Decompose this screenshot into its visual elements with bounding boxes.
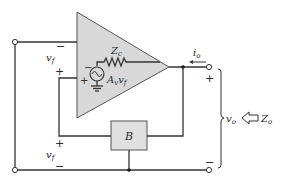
feedback-block-label: B: [124, 130, 133, 143]
arrowhead-icon: [189, 60, 193, 64]
circuit-diagram: B Zc − + Avvf − vf + + vf − io + − vo Zo: [0, 0, 285, 184]
feedback-wire-right: [147, 67, 183, 136]
terminal-output-plus: [206, 64, 211, 69]
output-brace: [218, 69, 224, 168]
input-top-minus: −: [56, 40, 65, 53]
input-bottom-plus: +: [55, 137, 64, 150]
input-top-plus: +: [55, 65, 64, 78]
source-plus-sign: +: [80, 75, 88, 86]
output-plus-sign: +: [205, 72, 214, 85]
input-top-voltage: vf: [46, 52, 56, 65]
output-voltage-label: vo: [226, 113, 236, 126]
terminal-bottom-left: [12, 167, 17, 172]
output-current-label: io: [193, 47, 200, 60]
output-minus-sign: −: [205, 156, 214, 169]
hollow-arrow-icon: [242, 112, 258, 124]
source-minus-sign: −: [84, 62, 92, 73]
input-bottom-minus: −: [55, 160, 64, 173]
terminal-top-left: [12, 39, 17, 44]
output-impedance-label: Zo: [260, 113, 272, 126]
